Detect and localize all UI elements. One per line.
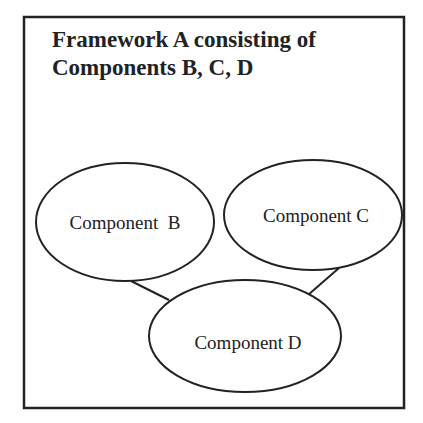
label-component-b: Component B bbox=[70, 212, 181, 234]
diagram-title: Framework A consisting of Components B, … bbox=[52, 26, 392, 82]
diagram-canvas: Framework A consisting of Components B, … bbox=[0, 0, 423, 423]
title-line-2: Components B, C, D bbox=[52, 54, 392, 82]
label-component-d: Component D bbox=[194, 332, 301, 354]
edge-b-d bbox=[131, 281, 169, 300]
label-component-c: Component C bbox=[263, 205, 369, 227]
edge-c-d bbox=[308, 268, 339, 295]
title-line-1: Framework A consisting of bbox=[52, 26, 392, 54]
